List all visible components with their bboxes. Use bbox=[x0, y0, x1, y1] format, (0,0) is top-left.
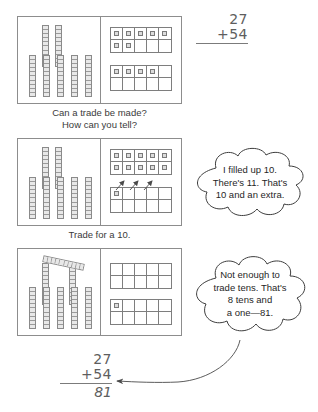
ten-frame-upper bbox=[110, 149, 172, 175]
ten-rod bbox=[29, 177, 36, 219]
ten-frame-empty-cell bbox=[159, 78, 171, 90]
sum-answer: 81 bbox=[60, 385, 112, 400]
ten-frame-counter bbox=[123, 162, 135, 174]
ten-frame-counter bbox=[135, 66, 147, 78]
ten-frame-lower bbox=[110, 299, 172, 325]
ten-rod bbox=[29, 55, 36, 97]
ten-frame-empty-cell bbox=[159, 312, 171, 324]
ten-frame-empty-cell bbox=[123, 300, 135, 312]
ten-frame-empty-cell bbox=[159, 40, 171, 52]
ten-rod bbox=[71, 177, 78, 219]
ten-frame-empty-cell bbox=[111, 264, 123, 276]
ten-frame-counter bbox=[147, 66, 159, 78]
ten-frame-empty-cell bbox=[135, 200, 147, 212]
ten-frame-empty-cell bbox=[147, 200, 159, 212]
workmat-panel-step-2 bbox=[17, 138, 182, 226]
ten-frame-empty-cell bbox=[159, 264, 171, 276]
ten-rod bbox=[43, 55, 50, 97]
ten-rod bbox=[85, 287, 92, 329]
ten-frame-empty-cell bbox=[123, 200, 135, 212]
callout-answer-text: Not enough to trade tens. That's 8 tens … bbox=[186, 269, 314, 319]
addend-top: 27 bbox=[196, 12, 248, 27]
workmat-panel-step-3 bbox=[17, 248, 182, 336]
ten-frame-counter bbox=[147, 162, 159, 174]
ten-frame-counter bbox=[159, 162, 171, 174]
ten-frame-empty-cell bbox=[111, 200, 123, 212]
ten-frame-counter bbox=[123, 28, 135, 40]
ten-frame-counter bbox=[159, 28, 171, 40]
ten-frame-counter bbox=[111, 150, 123, 162]
ten-frame-empty-cell bbox=[147, 276, 159, 288]
ten-rod bbox=[85, 177, 92, 219]
ten-frame-empty-cell bbox=[159, 66, 171, 78]
ten-frame-empty-cell bbox=[111, 276, 123, 288]
worksheet-canvas: Can a trade be made? How can you tell? 2… bbox=[0, 0, 318, 412]
ten-frame-empty-cell bbox=[123, 188, 135, 200]
ten-frame-empty-cell bbox=[135, 188, 147, 200]
ten-frame-empty-cell bbox=[147, 264, 159, 276]
ten-frame-empty-cell bbox=[123, 312, 135, 324]
addend-bottom: +54 bbox=[196, 27, 248, 42]
ten-frame-upper bbox=[110, 27, 172, 53]
ten-frame-empty-cell bbox=[147, 312, 159, 324]
workmat-divider bbox=[100, 139, 101, 225]
ten-frame-counter bbox=[147, 150, 159, 162]
callout-answer: Not enough to trade tens. That's 8 tens … bbox=[186, 252, 314, 340]
ten-rod bbox=[57, 177, 64, 219]
ten-rod bbox=[43, 287, 50, 329]
ten-frame-counter bbox=[111, 162, 123, 174]
ten-frame-lower bbox=[110, 187, 172, 213]
ten-frame-counter bbox=[111, 40, 123, 52]
callout-leader-line bbox=[117, 340, 240, 382]
workmat-divider bbox=[100, 249, 101, 335]
callout-trade: I filled up 10. There's 11. That's 10 an… bbox=[186, 144, 314, 220]
ten-frame-counter bbox=[159, 150, 171, 162]
ten-frame-empty-cell bbox=[147, 78, 159, 90]
ten-frame-upper bbox=[110, 263, 172, 289]
ten-frame-empty-cell bbox=[135, 78, 147, 90]
ten-frame-empty-cell bbox=[123, 264, 135, 276]
ten-rod bbox=[71, 287, 78, 329]
ten-frame-empty-cell bbox=[123, 276, 135, 288]
ten-frame-empty-cell bbox=[147, 188, 159, 200]
ten-frame-counter bbox=[135, 28, 147, 40]
ten-frame-empty-cell bbox=[111, 78, 123, 90]
ten-frame-counter bbox=[111, 28, 123, 40]
ten-rod bbox=[43, 177, 50, 219]
ten-frame-counter bbox=[123, 66, 135, 78]
ten-frame-counter bbox=[135, 150, 147, 162]
ten-frame-empty-cell bbox=[159, 200, 171, 212]
ten-frame-empty-cell bbox=[135, 300, 147, 312]
workmat-divider bbox=[100, 17, 101, 103]
workmat-panel-step-1 bbox=[17, 16, 182, 104]
ten-rod bbox=[29, 287, 36, 329]
ten-frame-counter bbox=[135, 162, 147, 174]
ten-frame-empty-cell bbox=[147, 40, 159, 52]
callout-trade-text: I filled up 10. There's 11. That's 10 an… bbox=[186, 164, 314, 202]
ten-frame-counter bbox=[147, 28, 159, 40]
ten-frame-counter bbox=[123, 40, 135, 52]
addition-problem-statement: 27 +54 bbox=[196, 12, 248, 45]
caption-step-1: Can a trade be made? How can you tell? bbox=[17, 107, 182, 131]
ten-rod bbox=[71, 55, 78, 97]
ten-frame-empty-cell bbox=[159, 276, 171, 288]
ten-frame-empty-cell bbox=[159, 300, 171, 312]
ten-frame-counter bbox=[111, 188, 123, 200]
ten-frame-empty-cell bbox=[147, 300, 159, 312]
addend-bottom: +54 bbox=[60, 367, 112, 382]
addition-problem-solved: 27 +54 81 bbox=[60, 352, 112, 400]
ten-rod bbox=[85, 55, 92, 97]
addend-top: 27 bbox=[60, 352, 112, 367]
ten-frame-empty-cell bbox=[159, 188, 171, 200]
ten-frame-empty-cell bbox=[123, 78, 135, 90]
caption-step-2: Trade for a 10. bbox=[17, 229, 182, 241]
ten-frame-counter bbox=[111, 300, 123, 312]
ten-frame-empty-cell bbox=[111, 312, 123, 324]
ten-frame-empty-cell bbox=[135, 264, 147, 276]
sum-rule bbox=[196, 43, 248, 44]
ten-frame-lower bbox=[110, 65, 172, 91]
ten-frame-empty-cell bbox=[135, 312, 147, 324]
ten-frame-empty-cell bbox=[135, 40, 147, 52]
ten-frame-empty-cell bbox=[135, 276, 147, 288]
ten-rod bbox=[57, 287, 64, 329]
